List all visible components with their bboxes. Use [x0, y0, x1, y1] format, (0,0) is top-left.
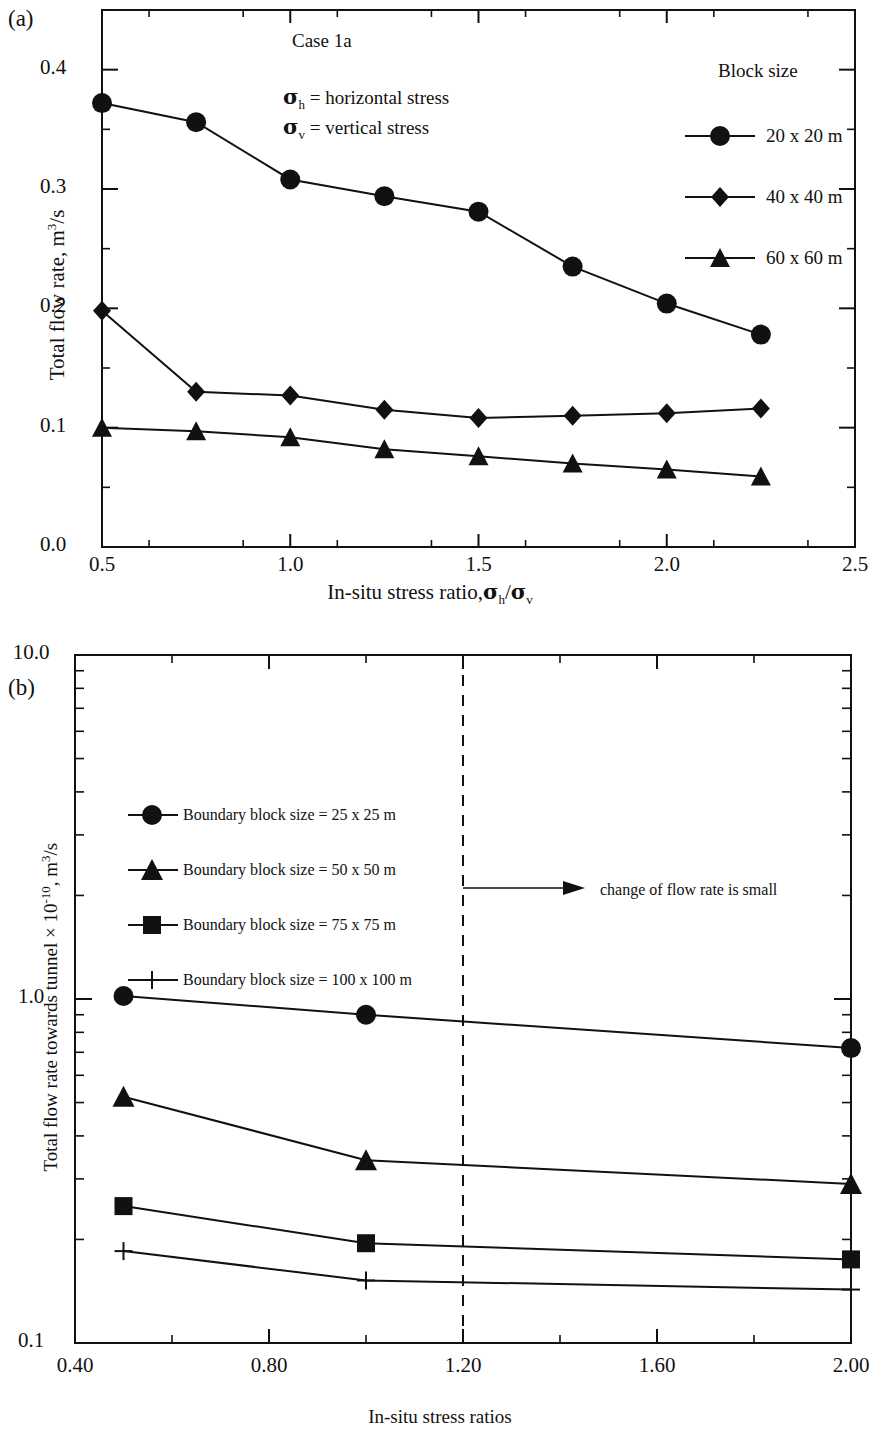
sigma-h-text: = horizontal stress	[310, 87, 449, 108]
legend-title-a: Block size	[718, 60, 798, 82]
y-tick-label-a-4: 0.4	[14, 55, 92, 80]
legend-markers-b	[128, 805, 178, 989]
y-axis-label-b-mid: , m	[40, 862, 61, 886]
y-axis-label-b-exponent2: 3	[38, 855, 53, 862]
flow-change-note: change of flow rate is small	[600, 881, 777, 899]
sigma-symbol: σ	[283, 114, 298, 139]
x-tick-label-b-0: 0.40	[30, 1353, 120, 1378]
sigma-v-text: = vertical stress	[310, 117, 429, 138]
y-axis-label-b-exponent1: -10	[38, 886, 53, 903]
y-tick-label-a-1: 0.1	[14, 413, 92, 438]
y-tick-label-a-0: 0.0	[14, 532, 92, 557]
y-axis-label-a-exponent: 3	[44, 224, 59, 231]
y-axis-label-b-prefix: Total flow rate towards tunnel × 10	[40, 904, 61, 1172]
y-axis-label-b-suffix: /s	[40, 843, 61, 856]
flow-change-arrow	[463, 881, 585, 895]
y-tick-label-a-3: 0.3	[14, 174, 92, 199]
sigma-symbol: σ	[283, 84, 298, 109]
x-tick-label-a-3: 2.0	[627, 552, 707, 577]
y-tick-label-a-2: 0.2	[14, 293, 92, 318]
legend-item-label-75x75: Boundary block size = 75 x 75 m	[183, 916, 396, 934]
x-tick-label-b-1: 0.80	[224, 1353, 314, 1378]
x-axis-label-b: In-situ stress ratios	[260, 1406, 620, 1428]
chart-panel-b	[0, 620, 871, 1437]
y-axis-label-a-suffix: /s	[45, 210, 69, 224]
x-tick-label-a-2: 1.5	[439, 552, 519, 577]
y-tick-label-b-1: 1.0	[0, 984, 70, 1009]
sigma-subscript-v: v	[526, 592, 533, 607]
legend-item-label-50x50: Boundary block size = 50 x 50 m	[183, 861, 396, 879]
x-tick-label-a-4: 2.5	[815, 552, 871, 577]
legend-item-label-40x40: 40 x 40 m	[766, 186, 843, 208]
sigma-symbol: σ	[511, 579, 526, 604]
y-tick-label-b-0: 0.1	[0, 1328, 70, 1353]
axis-ticks-a	[102, 10, 855, 547]
x-tick-label-b-4: 2.00	[806, 1353, 871, 1378]
sigma-h-definition: σh = horizontal stress	[283, 84, 449, 113]
legend-markers-a	[685, 126, 755, 267]
x-axis-label-a-prefix: In-situ stress ratio,	[327, 580, 483, 604]
data-series-group-a	[92, 93, 771, 486]
x-axis-label-a: In-situ stress ratio,σh/σv	[180, 579, 680, 608]
data-series-group-b	[113, 986, 863, 1299]
x-tick-label-a-1: 1.0	[250, 552, 330, 577]
figure-container: (a) Case 1a σh = horizontal stress σv = …	[0, 0, 871, 1437]
plot-area-border-a	[102, 10, 855, 547]
sigma-subscript-v: v	[298, 127, 305, 142]
y-tick-label-b-2: 10.0	[0, 640, 70, 665]
case-label: Case 1a	[292, 30, 352, 52]
legend-item-label-100x100: Boundary block size = 100 x 100 m	[183, 971, 412, 989]
x-tick-label-b-3: 1.60	[612, 1353, 702, 1378]
legend-item-label-60x60: 60 x 60 m	[766, 247, 843, 269]
sigma-subscript-h: h	[298, 97, 305, 112]
legend-item-label-25x25: Boundary block size = 25 x 25 m	[183, 806, 396, 824]
x-tick-label-b-2: 1.20	[418, 1353, 508, 1378]
legend-item-label-20x20: 20 x 20 m	[766, 125, 843, 147]
sigma-symbol: σ	[483, 579, 498, 604]
sigma-v-definition: σv = vertical stress	[283, 114, 429, 143]
